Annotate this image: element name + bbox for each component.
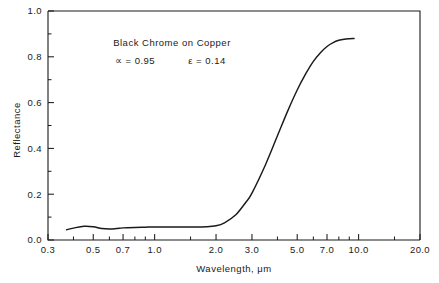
x-tick-label: 0.7 xyxy=(116,244,130,255)
y-tick-label: 1.0 xyxy=(28,5,42,16)
x-tick-label: 3.0 xyxy=(245,244,259,255)
sample-label: Black Chrome on Copper xyxy=(113,37,231,48)
y-tick-label: 0.6 xyxy=(28,97,42,108)
x-tick-label: 5.0 xyxy=(290,244,304,255)
x-tick-label: 7.0 xyxy=(320,244,334,255)
y-axis-title: Reflectance xyxy=(11,102,22,158)
x-tick-label: 1.0 xyxy=(147,244,161,255)
x-tick-label: 0.5 xyxy=(86,244,100,255)
y-tick-label: 0.0 xyxy=(28,234,42,245)
x-tick-label: 0.3 xyxy=(41,244,55,255)
x-tick-label: 2.0 xyxy=(209,244,223,255)
reflectance-chart: 0.30.50.71.02.03.05.07.010.020.0 0.00.20… xyxy=(0,0,439,283)
x-tick-label: 10.0 xyxy=(349,244,369,255)
absorptance-label: ∝ = 0.95 xyxy=(115,55,155,66)
y-tick-label: 0.4 xyxy=(28,143,42,154)
y-tick-label: 0.2 xyxy=(28,189,42,200)
chart-figure: 0.30.50.71.02.03.05.07.010.020.0 0.00.20… xyxy=(0,0,439,283)
y-tick-label: 0.8 xyxy=(28,51,42,62)
x-axis-title: Wavelength, μm xyxy=(196,263,271,274)
x-tick-label: 20.0 xyxy=(410,244,430,255)
emittance-label: ε = 0.14 xyxy=(188,55,226,66)
